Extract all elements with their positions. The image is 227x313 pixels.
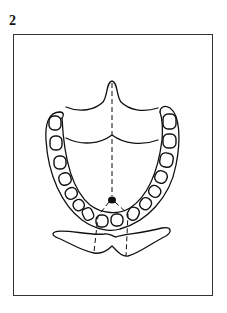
- tooth: [111, 214, 123, 226]
- tooth: [159, 152, 174, 168]
- tooth: [49, 116, 61, 130]
- teeth: [49, 114, 176, 227]
- tooth: [163, 134, 176, 148]
- tooth: [163, 114, 176, 129]
- tooth: [138, 196, 154, 212]
- tooth: [54, 156, 66, 169]
- dental-arch-diagram: [0, 0, 227, 313]
- lip-outline: [53, 228, 170, 257]
- tooth: [50, 136, 62, 150]
